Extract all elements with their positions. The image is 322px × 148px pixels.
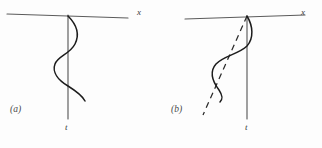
panel-caption-a: (a): [10, 105, 21, 115]
dashed-reference-line-b: [203, 16, 247, 115]
panel-a: x t (a): [0, 0, 161, 148]
t-axis-label-a: t: [65, 123, 68, 132]
x-axis-label-b: x: [301, 8, 305, 17]
wave-curve-b: [212, 16, 252, 102]
x-axis-label-a: x: [137, 8, 141, 17]
wave-curve-a: [54, 16, 85, 101]
figure-container: x t (a) x t (b): [0, 0, 322, 148]
panel-b: x t (b): [161, 0, 322, 148]
x-axis-line-b: [185, 15, 305, 19]
panel-a-drawing: [0, 0, 161, 148]
panel-caption-b: (b): [171, 105, 182, 115]
t-axis-label-b: t: [245, 123, 248, 132]
panel-b-drawing: [161, 0, 322, 148]
